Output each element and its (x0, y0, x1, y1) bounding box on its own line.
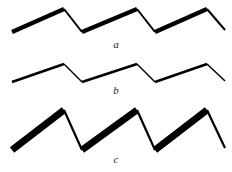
segment-a-fall-2 (137, 9, 155, 32)
segment-b-rise-2 (82, 64, 137, 82)
segment-b-rise-1 (12, 64, 64, 82)
segment-c-fall-2 (137, 110, 155, 150)
panel-label-a: a (0, 39, 232, 50)
segment-a-rise-3 (155, 9, 207, 32)
segment-c-rise-3 (155, 110, 207, 150)
segment-a-rise-2 (82, 9, 137, 32)
segment-b-fall-1 (64, 64, 82, 82)
waveform-trace-a (0, 0, 232, 38)
segment-b-rise-3 (155, 64, 207, 82)
waveform-panel-c (0, 104, 232, 156)
figure-root: a b c (0, 0, 232, 172)
segment-c-fall-3 (207, 110, 225, 148)
segment-a-fall-3 (207, 9, 225, 30)
segment-c-fall-1 (64, 110, 82, 150)
panel-label-c: c (0, 154, 232, 165)
waveform-a-rising-strokes (12, 9, 207, 32)
segment-a-fall-1 (64, 9, 82, 32)
panel-label-b: b (0, 85, 232, 96)
segment-c-rise-2 (82, 110, 137, 150)
segment-a-rise-1 (12, 9, 64, 32)
segment-b-fall-2 (137, 64, 155, 82)
segment-b-fall-3 (207, 64, 225, 81)
waveform-c-rising-strokes (12, 110, 207, 150)
waveform-trace-c (0, 104, 232, 156)
segment-c-rise-1 (12, 110, 64, 150)
waveform-b-rising-strokes (12, 64, 207, 82)
waveform-panel-a (0, 0, 232, 38)
